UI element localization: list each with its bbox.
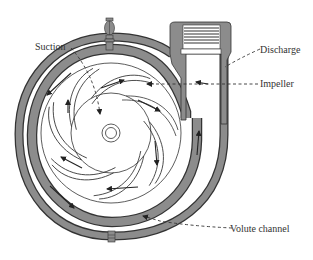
label-discharge: Discharge [260, 45, 300, 55]
pump-diagram [0, 0, 313, 260]
discharge-nozzle [170, 22, 231, 124]
eye-hub [102, 124, 120, 142]
bottom-drain-plug [108, 231, 115, 242]
impeller-vanes [35, 57, 182, 206]
impeller [35, 57, 182, 206]
casing [19, 37, 224, 236]
label-suction: Suction [35, 42, 66, 52]
label-impeller: Impeller [260, 79, 294, 89]
label-volute-channel: Volute channel [230, 224, 290, 234]
